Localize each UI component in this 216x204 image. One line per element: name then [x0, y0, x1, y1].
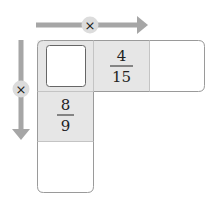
- multiplication-diagram: × × 4 15 8: [0, 0, 216, 204]
- svg-text:8: 8: [61, 96, 71, 114]
- vertical-multiply-icon: ×: [13, 81, 30, 98]
- cell-bottom-left[interactable]: [38, 142, 93, 192]
- horizontal-multiply-icon: ×: [82, 17, 99, 34]
- svg-text:×: ×: [16, 82, 27, 97]
- cell-top-right[interactable]: [150, 41, 204, 91]
- answer-box[interactable]: [47, 46, 86, 87]
- svg-text:15: 15: [112, 68, 131, 86]
- svg-text:9: 9: [61, 117, 71, 135]
- diagram-canvas: × × 4 15 8: [0, 0, 216, 204]
- svg-text:4: 4: [117, 47, 127, 65]
- svg-text:×: ×: [85, 18, 96, 33]
